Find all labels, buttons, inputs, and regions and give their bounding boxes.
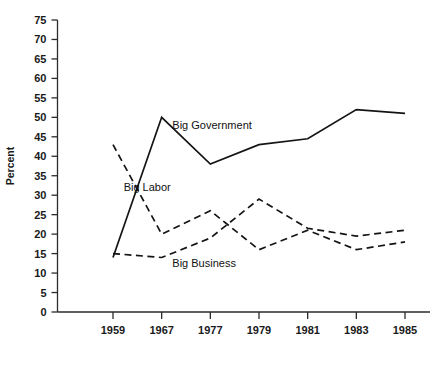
y-tick-label-70: 70 [34, 33, 46, 45]
y-axis-tick-labels: 051015202530354045505560657075 [34, 14, 46, 318]
line-chart-figure: 051015202530354045505560657075 Percent 1… [0, 0, 442, 366]
x-axis-ticks [113, 312, 405, 319]
y-tick-label-40: 40 [34, 150, 46, 162]
x-axis-tick-labels: 1959196719771979198119831985 [101, 324, 417, 336]
y-tick-label-30: 30 [34, 189, 46, 201]
series-line-big-labor [113, 145, 405, 250]
x-tick-label-1959: 1959 [101, 324, 125, 336]
y-axis-title: Percent [4, 146, 16, 185]
chart-canvas: 051015202530354045505560657075 Percent 1… [0, 0, 442, 366]
series-label-big-government: Big Government [172, 119, 251, 131]
y-tick-label-65: 65 [34, 53, 46, 65]
x-tick-label-1977: 1977 [198, 324, 222, 336]
y-tick-label-15: 15 [34, 248, 46, 260]
y-tick-label-0: 0 [40, 306, 46, 318]
x-tick-label-1981: 1981 [295, 324, 319, 336]
y-tick-label-20: 20 [34, 228, 46, 240]
y-tick-label-60: 60 [34, 72, 46, 84]
y-tick-label-35: 35 [34, 170, 46, 182]
y-tick-label-5: 5 [40, 287, 46, 299]
y-tick-label-50: 50 [34, 111, 46, 123]
x-tick-label-1983: 1983 [344, 324, 368, 336]
y-tick-label-45: 45 [34, 131, 46, 143]
y-tick-label-25: 25 [34, 209, 46, 221]
y-axis-ticks [52, 20, 58, 312]
y-axis-group: 051015202530354045505560657075 Percent [4, 14, 58, 318]
x-axis-group: 1959196719771979198119831985 [58, 312, 431, 336]
x-tick-label-1985: 1985 [393, 324, 417, 336]
y-tick-label-10: 10 [34, 267, 46, 279]
series-label-big-labor: Big Labor [124, 181, 171, 193]
x-tick-label-1979: 1979 [247, 324, 271, 336]
y-tick-label-55: 55 [34, 92, 46, 104]
y-tick-label-75: 75 [34, 14, 46, 26]
x-tick-label-1967: 1967 [149, 324, 173, 336]
series-label-big-business: Big Business [172, 257, 236, 269]
